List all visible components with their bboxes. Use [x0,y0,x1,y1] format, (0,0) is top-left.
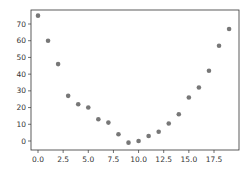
data-point [207,69,212,74]
data-point [46,38,51,43]
x-tick-label: 0.0 [32,155,44,164]
data-point [197,85,202,90]
y-tick-label: 50 [16,53,26,62]
plot-frame [31,10,239,150]
data-point [126,140,131,145]
y-tick-label: 70 [16,20,26,29]
x-tick-label: 15.0 [181,155,198,164]
data-point [156,130,161,135]
data-point [66,94,71,99]
x-axis-ticks: 0.02.55.07.510.012.515.017.5 [32,150,223,164]
data-point [166,121,171,126]
data-point [217,43,222,48]
y-tick-label: 60 [16,36,26,45]
x-tick-label: 12.5 [155,155,172,164]
y-axis-ticks: 010203040506070 [16,20,31,146]
y-tick-label: 30 [16,86,26,95]
y-tick-label: 20 [16,103,26,112]
data-point [36,13,41,18]
x-tick-label: 17.5 [206,155,223,164]
data-point [187,95,192,100]
y-tick-label: 10 [16,120,26,129]
data-point [106,120,111,125]
data-point [136,139,141,144]
x-tick-label: 7.5 [107,155,119,164]
x-tick-label: 5.0 [82,155,94,164]
data-point [116,132,121,137]
data-point [86,105,91,110]
data-point [76,102,81,107]
scatter-chart: 0.02.55.07.510.012.515.017.5 01020304050… [0,0,251,172]
x-tick-label: 10.0 [130,155,147,164]
data-points [36,13,232,145]
data-point [146,134,151,139]
x-tick-label: 2.5 [57,155,69,164]
data-point [227,27,232,32]
y-tick-label: 0 [21,137,26,146]
data-point [96,117,101,122]
data-point [177,112,182,117]
data-point [56,62,61,67]
y-tick-label: 40 [16,70,26,79]
